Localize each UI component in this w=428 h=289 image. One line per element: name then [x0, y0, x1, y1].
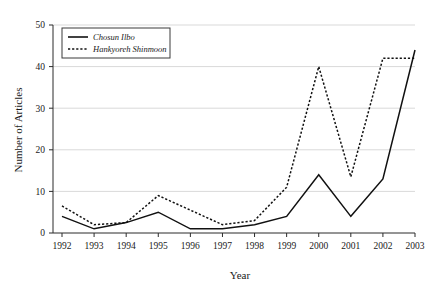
x-axis-tick-labels-group: 1992199319941995199619971998199920002001… — [53, 241, 425, 251]
legend-label-chosun-ilbo: Chosun Ilbo — [93, 32, 135, 42]
y-axis-tick-labels-group: 01020304050 — [36, 20, 46, 238]
x-tick-label-1997: 1997 — [213, 241, 232, 251]
series-line-hankyoreh-shinmoon — [62, 58, 415, 224]
y-tick-label-40: 40 — [36, 62, 46, 72]
x-axis-ticks-group — [62, 233, 415, 237]
x-tick-label-1993: 1993 — [85, 241, 104, 251]
x-tick-label-1999: 1999 — [277, 241, 296, 251]
y-tick-label-10: 10 — [36, 187, 46, 197]
y-axis-title: Number of Articles — [12, 88, 24, 173]
x-tick-label-2001: 2001 — [341, 241, 360, 251]
x-tick-label-2003: 2003 — [406, 241, 425, 251]
x-tick-label-1996: 1996 — [181, 241, 200, 251]
x-axis-title: Year — [230, 269, 251, 281]
y-tick-label-20: 20 — [36, 145, 46, 155]
x-tick-label-2000: 2000 — [309, 241, 328, 251]
y-tick-label-50: 50 — [36, 20, 46, 30]
y-axis-ticks-group — [49, 25, 53, 233]
line-chart: 01020304050 1992199319941995199619971998… — [0, 0, 428, 289]
y-tick-label-30: 30 — [36, 104, 46, 114]
x-tick-label-2002: 2002 — [373, 241, 392, 251]
x-tick-label-1994: 1994 — [117, 241, 136, 251]
legend-label-hankyoreh-shinmoon: Hankyoreh Shinmoon — [92, 44, 167, 54]
y-tick-label-0: 0 — [40, 228, 45, 238]
series-line-chosun-ilbo — [62, 50, 415, 229]
x-tick-label-1998: 1998 — [245, 241, 264, 251]
chart-legend: Chosun Ilbo Hankyoreh Shinmoon — [62, 28, 170, 58]
x-tick-label-1992: 1992 — [53, 241, 72, 251]
chart-container: 01020304050 1992199319941995199619971998… — [0, 0, 428, 289]
x-tick-label-1995: 1995 — [149, 241, 168, 251]
